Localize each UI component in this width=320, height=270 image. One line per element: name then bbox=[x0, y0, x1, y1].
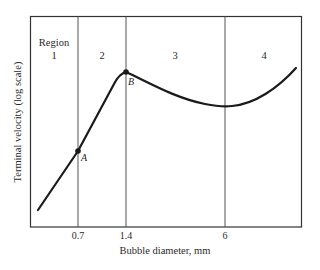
point-b-label: B bbox=[128, 76, 134, 87]
chart-container: Region 1 2 3 4 A B 0.7 1.4 6 Bubble diam… bbox=[0, 0, 320, 270]
region-3-label: 3 bbox=[172, 50, 177, 61]
plot-frame bbox=[31, 17, 302, 228]
x-tick-0.7: 0.7 bbox=[72, 230, 85, 241]
region-2-label: 2 bbox=[99, 50, 104, 61]
x-tick-1.4: 1.4 bbox=[120, 230, 133, 241]
region-1-number: 1 bbox=[51, 50, 56, 61]
velocity-curve bbox=[38, 68, 296, 210]
x-tick-6: 6 bbox=[223, 230, 228, 241]
x-axis-label: Bubble diameter, mm bbox=[120, 245, 211, 256]
y-axis-label: Terminal velocity (log scale) bbox=[12, 61, 24, 182]
terminal-velocity-chart: Region 1 2 3 4 A B 0.7 1.4 6 Bubble diam… bbox=[0, 0, 320, 270]
region-1-label: Region bbox=[39, 37, 70, 48]
point-b-marker bbox=[123, 69, 129, 75]
point-a-marker bbox=[75, 148, 81, 154]
point-a-label: A bbox=[80, 152, 88, 163]
region-4-label: 4 bbox=[261, 50, 267, 61]
